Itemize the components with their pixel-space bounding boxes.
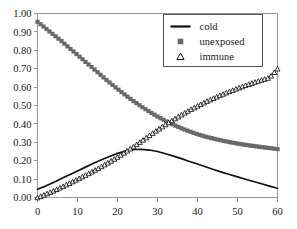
x-axis-tick-label: 10 xyxy=(72,206,83,217)
y-axis-tick-label: 0.40 xyxy=(13,119,31,130)
y-axis-tick-label: 0.80 xyxy=(13,45,31,56)
y-axis-tick-label: 1.00 xyxy=(13,8,31,19)
x-axis-tick-label: 60 xyxy=(272,206,283,217)
legend-label-cold: cold xyxy=(200,21,219,32)
legend-label-immune: immune xyxy=(200,51,235,62)
y-axis-tick-label: 0.30 xyxy=(13,137,31,148)
chart-container: 0.000.100.200.300.400.500.600.700.800.90… xyxy=(0,0,297,229)
legend-label-unexposed: unexposed xyxy=(200,36,246,47)
chart-legend: coldunexposedimmune xyxy=(164,15,263,67)
x-axis-tick-label: 40 xyxy=(192,206,203,217)
y-axis-tick-label: 0.60 xyxy=(13,82,31,93)
y-axis-tick-label: 0.90 xyxy=(13,27,31,38)
x-axis-tick-label: 20 xyxy=(112,206,123,217)
y-axis-tick-labels: 0.000.100.200.300.400.500.600.700.800.90… xyxy=(13,8,31,203)
legend-marker-square xyxy=(178,39,184,45)
line-chart: 0.000.100.200.300.400.500.600.700.800.90… xyxy=(0,0,297,229)
y-axis-tick-label: 0.50 xyxy=(13,100,31,111)
y-axis-tick-label: 0.00 xyxy=(13,192,31,203)
y-axis-tick-label: 0.10 xyxy=(13,174,31,185)
x-axis-tick-label: 50 xyxy=(232,206,243,217)
x-axis-tick-label: 30 xyxy=(152,206,163,217)
data-point-marker-square xyxy=(275,147,279,151)
x-axis-tick-label: 0 xyxy=(35,206,40,217)
y-axis-tick-label: 0.20 xyxy=(13,155,31,166)
y-axis-tick-label: 0.70 xyxy=(13,63,31,74)
